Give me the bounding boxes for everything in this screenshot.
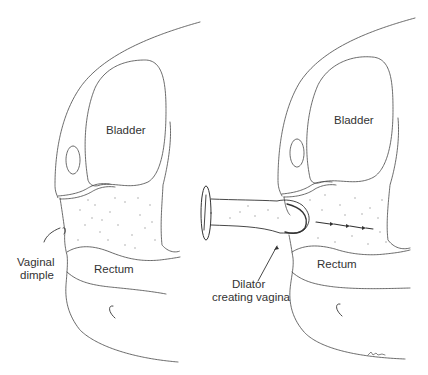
right-rectum-top	[292, 246, 410, 255]
dilator-shaft	[211, 199, 309, 233]
dilator-label-line2: creating vagina	[212, 291, 291, 303]
right-abdominal-wall	[278, 18, 415, 196]
dilator-pointer	[258, 246, 277, 281]
left-posterior-edge	[161, 122, 180, 252]
left-bladder-label: Bladder	[106, 124, 146, 136]
left-anal-fold	[109, 306, 115, 318]
push-arrows	[316, 222, 373, 230]
left-panel: Bladder Rectum Vaginal dimple	[17, 22, 200, 362]
vaginal-dimple-label-line2: dimple	[20, 269, 54, 281]
right-rectum-bottom	[292, 272, 410, 289]
dilator	[201, 186, 309, 240]
dilator-tip-inner	[285, 204, 306, 233]
dilator-label-line1: Dilator	[232, 278, 265, 290]
anatomy-diagram: Bladder Rectum Vaginal dimple	[0, 0, 428, 375]
left-stipple	[77, 197, 155, 248]
left-bladder-outline	[85, 60, 166, 186]
right-pubic-bone	[290, 139, 304, 167]
left-rectum-top	[67, 247, 180, 261]
left-dimple-pointer	[44, 228, 60, 242]
left-pubic-bone	[66, 146, 80, 174]
left-rectum-bottom	[67, 272, 166, 294]
right-anal-fold	[336, 304, 342, 316]
right-bottom-scribble	[368, 352, 385, 355]
vaginal-dimple-label-line1: Vaginal	[17, 256, 55, 268]
dilator-handle	[201, 186, 211, 240]
right-panel: Bladder Rectum Dilator creating vagina	[201, 18, 415, 359]
left-urethra-band-top	[58, 184, 110, 196]
left-perineum-edge	[60, 198, 178, 362]
right-rectum-label: Rectum	[317, 258, 357, 270]
dilator-handle-inner	[204, 195, 206, 230]
left-rectum-label: Rectum	[94, 263, 134, 275]
right-urethra-band-bottom	[284, 185, 336, 197]
right-urethra-band-top	[282, 182, 332, 194]
right-bladder-label: Bladder	[334, 114, 374, 126]
right-posterior-edge	[387, 118, 410, 249]
right-stipple	[229, 194, 386, 244]
